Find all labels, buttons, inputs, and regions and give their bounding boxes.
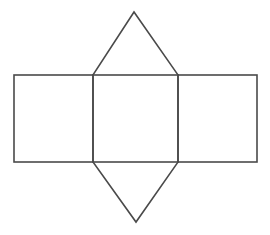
- right-rectangle-face: [178, 75, 257, 162]
- left-rectangle-face: [14, 75, 93, 162]
- top-triangle-face: [93, 12, 178, 75]
- prism-net-diagram: [0, 0, 270, 235]
- middle-rectangle-face: [93, 75, 178, 162]
- bottom-triangle-face: [93, 162, 178, 222]
- diagram-svg: [0, 0, 270, 235]
